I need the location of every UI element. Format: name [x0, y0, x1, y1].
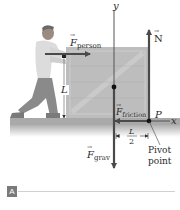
f-friction-subscript: friction — [122, 111, 146, 119]
pivot-p-label: P — [155, 110, 162, 120]
center-of-mass-dot — [112, 85, 117, 90]
normal-force-label: N — [154, 34, 163, 44]
f-friction-label: Ffriction — [116, 108, 146, 119]
f-friction-symbol: F — [116, 108, 122, 117]
f-person-symbol: F — [70, 38, 77, 48]
f-grav-symbol: F — [87, 150, 94, 160]
half-length-numerator: L — [129, 128, 134, 136]
f-person-label: Fperson — [70, 38, 101, 50]
f-grav-label: Fgrav — [87, 150, 110, 162]
f-grav-subscript: grav — [94, 154, 110, 162]
height-label: L — [60, 85, 69, 95]
half-length-denominator: 2 — [129, 138, 134, 146]
f-person-subscript: person — [77, 42, 101, 50]
pivot-label-line1: Pivot — [148, 146, 171, 155]
panel-label-badge: A — [7, 186, 17, 197]
y-axis-label: y — [113, 1, 119, 11]
crate-free-body-diagram — [0, 0, 180, 210]
panel-divider — [18, 191, 175, 192]
person-figure — [10, 25, 67, 118]
pivot-label-line2: point — [148, 157, 171, 166]
x-axis-label: x — [171, 116, 177, 126]
normal-force-symbol: N — [154, 34, 163, 44]
